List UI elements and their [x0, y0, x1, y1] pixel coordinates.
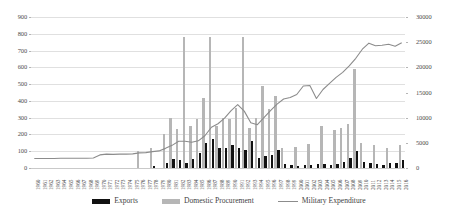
y-axis-right-tick-label: 5000: [416, 140, 450, 146]
y-axis-left-tick-label: 500: [3, 81, 27, 87]
x-axis-tick-label: 2006: [338, 180, 343, 190]
x-axis-tick-label: 1996: [272, 180, 277, 190]
x-axis-tick-label: 1999: [292, 180, 297, 190]
legend-swatch-exports: [92, 199, 110, 204]
military-expenditure-line: [31, 17, 405, 168]
legend-item-domestic-procurement: Domestic Procurement: [162, 197, 254, 205]
legend-label-military-expenditure: Military Expenditure: [302, 197, 366, 205]
x-axis-tick-label: 1971: [108, 180, 113, 190]
x-axis-tick-label: 1998: [286, 180, 291, 190]
legend-label-exports: Exports: [114, 197, 138, 205]
x-axis-tick-label: 1991: [240, 180, 245, 190]
x-axis-tick-label: 1969: [95, 180, 100, 190]
x-axis-tick-label: 1965: [69, 180, 74, 190]
x-axis-tick-label: 1960: [36, 180, 41, 190]
legend-item-exports: Exports: [92, 197, 138, 205]
y-axis-right-tick-mark: [406, 118, 408, 119]
x-axis-tick-label: 1987: [213, 180, 218, 190]
y-axis-right-tick-label: 20000: [416, 64, 450, 70]
x-axis-tick-label: 1966: [76, 180, 81, 190]
y-axis-right-tick-label: 25000: [416, 39, 450, 45]
y-axis-right-tick-label: 0: [416, 165, 450, 171]
x-axis-tick-label: 2014: [390, 180, 395, 190]
x-axis-tick-label: 2012: [377, 180, 382, 190]
x-axis-tick-label: 2007: [345, 180, 350, 190]
chart-legend: Exports Domestic Procurement Military Ex…: [0, 194, 458, 208]
legend-item-military-expenditure: Military Expenditure: [278, 197, 366, 205]
x-axis-tick-label: 1989: [226, 180, 231, 190]
y-axis-right-tick-label: 30000: [416, 14, 450, 20]
line-path-military-expenditure: [34, 43, 401, 159]
x-axis-tick-label: 2015: [397, 180, 402, 190]
y-axis-left-tick-label: 0: [3, 165, 27, 171]
y-axis-left-tick-label: 400: [3, 98, 27, 104]
y-axis-left-tick-label: 100: [3, 148, 27, 154]
x-axis-tick-label: 2005: [331, 180, 336, 190]
y-axis-left-tick-label: 600: [3, 64, 27, 70]
y-axis-right-tick-mark: [406, 42, 408, 43]
x-axis-tick-label: 1964: [62, 180, 67, 190]
chart-container: 0100200300400500600700800900 05000100001…: [0, 0, 458, 214]
y-axis-left-tick-label: 200: [3, 131, 27, 137]
legend-label-domestic-procurement: Domestic Procurement: [184, 197, 254, 205]
x-axis-tick-label: 2008: [351, 180, 356, 190]
y-axis-left-tick-mark: [29, 168, 31, 169]
x-axis-tick-label: 1983: [187, 180, 192, 190]
x-axis-tick-label: 1990: [233, 180, 238, 190]
y-axis-left-tick-label: 800: [3, 31, 27, 37]
x-axis-tick-label: 1967: [82, 180, 87, 190]
y-axis-right-tick-mark: [406, 93, 408, 94]
x-axis-tick-label: 1980: [167, 180, 172, 190]
x-axis-tick-label: 1976: [141, 180, 146, 190]
x-axis-tick-label: 1997: [279, 180, 284, 190]
y-axis-right-tick-label: 10000: [416, 115, 450, 121]
y-axis-left-tick-label: 700: [3, 48, 27, 54]
x-axis-tick-label: 1985: [200, 180, 205, 190]
x-axis-tick-label: 1992: [246, 180, 251, 190]
x-axis-tick-label: 2016: [404, 180, 409, 190]
x-axis-tick-label: 1962: [49, 180, 54, 190]
legend-swatch-domestic-procurement: [162, 199, 180, 204]
y-axis-right-tick-mark: [406, 168, 408, 169]
y-axis-left-tick-label: 300: [3, 115, 27, 121]
x-axis-tick-label: 2001: [305, 180, 310, 190]
x-axis-tick-label: 1994: [259, 180, 264, 190]
y-axis-right-tick-mark: [406, 67, 408, 68]
x-axis-tick-label: 1973: [121, 180, 126, 190]
y-axis-left-tick-label: 900: [3, 14, 27, 20]
legend-swatch-military-expenditure: [278, 201, 298, 202]
gridline: [31, 168, 405, 169]
x-axis-tick-label: 1978: [154, 180, 159, 190]
x-axis-tick-label: 2003: [318, 180, 323, 190]
y-axis-right-tick-mark: [406, 17, 408, 18]
x-axis-tick-label: 1982: [181, 180, 186, 190]
line-series-layer: [31, 17, 405, 168]
y-axis-right-tick-mark: [406, 143, 408, 144]
x-axis-tick-label: 1974: [128, 180, 133, 190]
y-axis-right-tick-label: 15000: [416, 90, 450, 96]
x-axis-tick-label: 2010: [364, 180, 369, 190]
x-axis-tick-label: 1981: [174, 180, 179, 190]
x-axis-labels: 1960196119621963196419651966196719681969…: [31, 170, 405, 192]
